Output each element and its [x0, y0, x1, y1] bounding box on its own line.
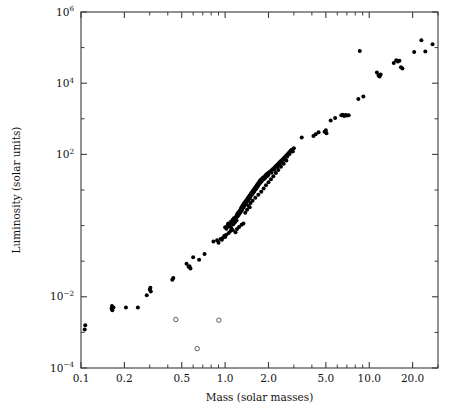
data-point-filled — [412, 50, 416, 54]
data-point-filled — [222, 234, 226, 238]
y-tick-label: 10−4 — [50, 360, 74, 373]
y-tick-label: 104 — [56, 76, 74, 89]
tick-labels-group: 0.10.20.51.02.05.010.020.010610410210−21… — [50, 4, 424, 384]
data-point-filled — [251, 199, 255, 203]
data-point-filled — [300, 135, 304, 139]
data-point-filled — [333, 116, 337, 120]
data-point-filled — [136, 306, 140, 310]
x-tick-label: 0.2 — [116, 372, 133, 384]
data-point-open — [174, 317, 178, 321]
data-point-filled — [431, 42, 435, 46]
y-tick-label: 102 — [56, 147, 74, 160]
data-point-filled — [270, 171, 274, 175]
y-tick-label: 10−2 — [50, 289, 74, 302]
data-point-filled — [292, 146, 296, 150]
data-point-filled — [83, 328, 87, 332]
x-tick-label: 10.0 — [358, 372, 381, 384]
data-point-filled — [397, 59, 401, 63]
axes-group — [81, 12, 438, 368]
data-point-filled — [423, 49, 427, 53]
data-point-filled — [197, 258, 201, 262]
data-point-filled — [111, 306, 115, 310]
data-point-filled — [256, 193, 260, 197]
data-point-filled — [83, 323, 87, 327]
data-point-filled — [284, 159, 288, 163]
data-point-filled — [235, 218, 239, 222]
data-point-filled — [361, 95, 365, 99]
data-point-filled — [264, 183, 268, 187]
data-point-filled — [279, 165, 283, 169]
data-point-filled — [124, 306, 128, 310]
data-point-filled — [324, 131, 328, 135]
data-point-filled — [356, 97, 360, 101]
data-point-filled — [419, 38, 423, 42]
x-tick-label: 0.5 — [173, 372, 190, 384]
x-tick-label: 0.1 — [73, 372, 90, 384]
data-point-filled — [271, 174, 275, 178]
y-tick-label: 106 — [56, 4, 74, 17]
data-point-filled — [317, 130, 321, 134]
data-point-open — [217, 318, 221, 322]
data-points-group — [83, 38, 435, 351]
data-point-filled — [148, 286, 152, 290]
x-axis-title: Mass (solar masses) — [206, 391, 314, 403]
data-point-filled — [217, 241, 221, 245]
data-point-filled — [191, 255, 195, 259]
data-point-filled — [211, 239, 215, 243]
x-tick-label: 2.0 — [260, 372, 277, 384]
data-point-filled — [329, 118, 333, 122]
y-axis-title: Luminosity (solar units) — [10, 127, 22, 254]
data-point-filled — [379, 73, 383, 77]
chart-canvas: 0.10.20.51.02.05.010.020.010610410210−21… — [0, 0, 460, 408]
data-point-filled — [253, 196, 257, 200]
data-point-filled — [248, 205, 252, 209]
data-point-filled — [400, 66, 404, 70]
data-point-filled — [171, 276, 175, 280]
ticks-group — [81, 12, 438, 368]
x-tick-label: 20.0 — [401, 372, 424, 384]
mass-luminosity-scatter-figure: 0.10.20.51.02.05.010.020.010610410210−21… — [0, 0, 460, 408]
data-point-filled — [358, 49, 362, 53]
x-tick-label: 1.0 — [217, 372, 234, 384]
data-point-filled — [203, 252, 207, 256]
data-point-filled — [145, 293, 149, 297]
plot-border — [81, 12, 438, 368]
data-point-filled — [347, 113, 351, 117]
data-point-filled — [188, 267, 192, 271]
data-point-filled — [282, 162, 286, 166]
data-point-filled — [276, 168, 280, 172]
data-point-filled — [241, 221, 245, 225]
data-point-open — [195, 346, 199, 350]
x-tick-label: 5.0 — [318, 372, 335, 384]
data-point-filled — [149, 290, 153, 294]
